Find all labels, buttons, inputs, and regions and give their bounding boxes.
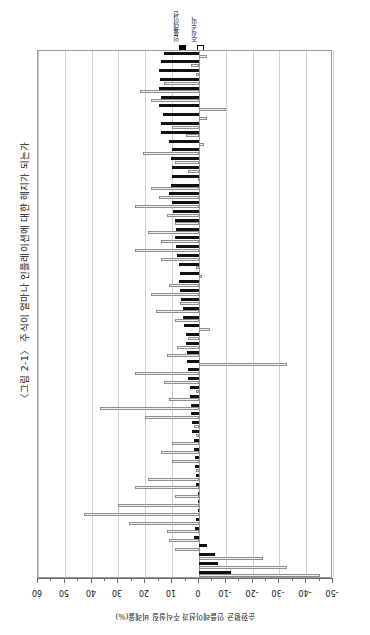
x-axis-tick bbox=[225, 578, 226, 583]
bar-stock-return bbox=[161, 240, 199, 243]
x-axis-tick bbox=[91, 578, 92, 583]
x-axis-tick-label: 20 bbox=[131, 588, 157, 597]
bar-stock-return bbox=[148, 478, 199, 481]
bar-stock-return bbox=[194, 425, 199, 428]
x-axis-tick bbox=[198, 578, 199, 583]
bar-stock-return bbox=[135, 372, 199, 375]
x-axis-tick bbox=[117, 578, 118, 583]
x-axis-tick-minor bbox=[292, 578, 293, 581]
bar-stock-return bbox=[159, 196, 199, 199]
bar-inflation bbox=[199, 544, 207, 547]
bar-stock-return bbox=[135, 486, 199, 489]
gridline bbox=[253, 51, 254, 577]
bar-stock-return bbox=[161, 451, 199, 454]
gridline bbox=[38, 51, 39, 577]
x-axis-tick-label: -50 bbox=[319, 588, 345, 597]
bar-stock-return bbox=[188, 170, 199, 173]
bar-stock-return bbox=[84, 513, 199, 516]
x-axis-tick-label: 30 bbox=[104, 588, 130, 597]
chart-legend: 인플레이션 주식수익 bbox=[176, 6, 218, 52]
bar-stock-return bbox=[177, 346, 198, 349]
bar-stock-return bbox=[175, 319, 199, 322]
x-axis-tick-minor bbox=[77, 578, 78, 581]
bar-stock-return bbox=[151, 187, 199, 190]
x-axis-tick-minor bbox=[265, 578, 266, 581]
bar-stock-return bbox=[148, 231, 199, 234]
bar-stock-return bbox=[172, 442, 199, 445]
bar-stock-return bbox=[100, 407, 199, 410]
bar-inflation bbox=[159, 104, 199, 107]
figure-page: 〈그림 2-1〉 주식이 얼마나 인플레이션에 대한 헤지가 되는가 인플레이션… bbox=[0, 0, 370, 635]
bar-stock-return bbox=[151, 99, 199, 102]
bar-stock-return bbox=[161, 258, 199, 261]
bar-inflation bbox=[187, 360, 199, 363]
bar-inflation bbox=[184, 324, 199, 327]
x-axis-tick bbox=[252, 578, 253, 583]
bar-stock-return bbox=[196, 390, 199, 393]
bar-stock-return bbox=[199, 574, 320, 577]
gridline bbox=[279, 51, 280, 577]
bar-inflation bbox=[164, 52, 199, 55]
x-axis-title: 순환평균 인플레이션과 주식실질 비례율(%) bbox=[60, 612, 310, 623]
bar-stock-return bbox=[143, 152, 199, 155]
gridline bbox=[306, 51, 307, 577]
x-axis-tick bbox=[37, 578, 38, 583]
gridline bbox=[92, 51, 93, 577]
x-axis-tick-label: -20 bbox=[239, 588, 265, 597]
bar-stock-return bbox=[199, 143, 204, 146]
figure-title: 〈그림 2-1〉 주식이 얼마나 인플레이션에 대한 헤지가 되는가 bbox=[17, 163, 31, 403]
bar-stock-return bbox=[167, 354, 199, 357]
x-axis-tick-label: 40 bbox=[78, 588, 104, 597]
bar-stock-return bbox=[198, 178, 200, 181]
bar-stock-return bbox=[145, 416, 199, 419]
bar-stock-return bbox=[169, 284, 199, 287]
bar-inflation bbox=[163, 113, 199, 116]
bar-stock-return bbox=[180, 302, 199, 305]
legend-label-stock-return: 주식수익 bbox=[190, 18, 203, 42]
bar-stock-return bbox=[199, 363, 288, 366]
bar-stock-return bbox=[196, 266, 199, 269]
bar-stock-return bbox=[175, 495, 199, 498]
bar-stock-return bbox=[172, 126, 199, 129]
x-axis-tick bbox=[64, 578, 65, 583]
bar-stock-return bbox=[169, 398, 199, 401]
gridline bbox=[118, 51, 119, 577]
bar-stock-return bbox=[129, 522, 199, 525]
x-axis-tick-minor bbox=[185, 578, 186, 581]
x-axis-tick-label: -30 bbox=[265, 588, 291, 597]
x-axis-tick-label: 50 bbox=[51, 588, 77, 597]
bar-inflation bbox=[169, 140, 199, 143]
x-axis-tick-minor bbox=[50, 578, 51, 581]
x-axis-tick bbox=[332, 578, 333, 583]
bar-inflation bbox=[159, 69, 199, 72]
bar-stock-return bbox=[175, 222, 199, 225]
bar-inflation bbox=[172, 175, 199, 178]
gridline bbox=[333, 51, 334, 577]
x-axis-tick-label: 0 bbox=[185, 588, 211, 597]
bar-stock-return bbox=[167, 530, 199, 533]
bar-stock-return bbox=[186, 134, 199, 137]
x-axis-tick bbox=[278, 578, 279, 583]
bar-stock-return bbox=[196, 73, 199, 76]
bar-stock-return bbox=[199, 328, 210, 331]
x-axis-tick-minor bbox=[131, 578, 132, 581]
bar-stock-return bbox=[118, 504, 198, 507]
gridline bbox=[226, 51, 227, 577]
bar-stock-return bbox=[164, 381, 199, 384]
bar-stock-return bbox=[135, 205, 199, 208]
bar-stock-return bbox=[199, 275, 202, 278]
bar-stock-return bbox=[175, 548, 199, 551]
gridline bbox=[145, 51, 146, 577]
x-axis-tick-minor bbox=[319, 578, 320, 581]
x-axis-tick-minor bbox=[211, 578, 212, 581]
bar-stock-return bbox=[169, 539, 199, 542]
bar-stock-return bbox=[199, 566, 288, 569]
bar-stock-return bbox=[167, 214, 199, 217]
bar-inflation bbox=[180, 272, 199, 275]
bar-stock-return bbox=[196, 434, 199, 437]
x-axis-tick-minor bbox=[104, 578, 105, 581]
x-axis-tick-minor bbox=[158, 578, 159, 581]
x-axis-tick bbox=[144, 578, 145, 583]
gridline-zero bbox=[199, 51, 200, 577]
bar-stock-return bbox=[199, 55, 207, 58]
